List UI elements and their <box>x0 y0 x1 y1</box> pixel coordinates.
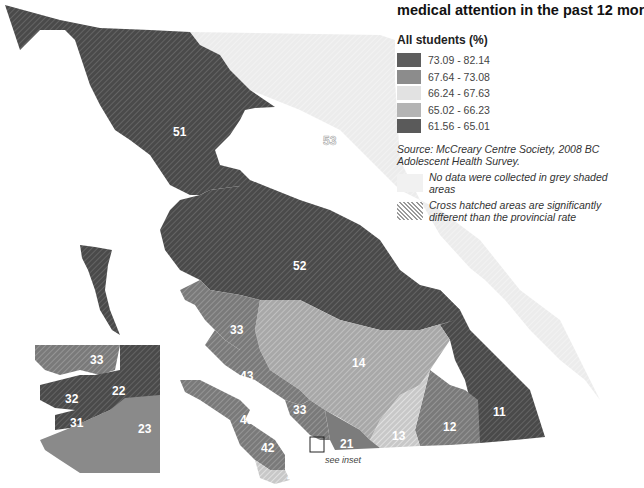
cross-hatch-swatch <box>397 202 423 220</box>
label-41: 41 <box>287 470 301 484</box>
haida-gwaii <box>80 245 120 335</box>
no-data-text: No data were collected in grey shaded ar… <box>429 171 618 195</box>
inset-label-33: 33 <box>90 353 104 367</box>
see-inset-note: see inset <box>325 455 362 465</box>
no-data-swatch <box>397 174 423 192</box>
legend-item: 61.56 - 65.01 <box>397 118 618 135</box>
inset-label-22: 22 <box>112 384 126 398</box>
label-21: 21 <box>340 437 354 451</box>
label-14: 14 <box>352 356 366 370</box>
inset-region-33[interactable] <box>35 345 120 375</box>
legend-swatch <box>397 103 421 117</box>
legend-item: 66.24 - 67.63 <box>397 85 618 102</box>
legend-item: 67.64 - 73.08 <box>397 69 618 86</box>
legend-label: 65.02 - 66.23 <box>428 104 490 116</box>
label-52: 52 <box>293 259 307 273</box>
inset-label-23: 23 <box>138 422 152 436</box>
label-51: 51 <box>173 125 187 139</box>
cross-hatch-text: Cross hatched areas are significantly di… <box>429 199 618 223</box>
legend-label: 67.64 - 73.08 <box>428 71 490 83</box>
label-43: 43 <box>240 369 254 383</box>
inset-label-31: 31 <box>70 416 84 430</box>
legend: All students (%) 73.09 - 82.14 67.64 - 7… <box>397 33 618 223</box>
label-12: 12 <box>443 420 457 434</box>
label-42: 42 <box>261 441 275 455</box>
legend-label: 66.24 - 67.63 <box>428 87 490 99</box>
inset-label-32: 32 <box>65 392 79 406</box>
legend-swatch <box>397 70 421 84</box>
legend-swatch <box>397 119 421 133</box>
legend-swatch <box>397 53 421 67</box>
label-13: 13 <box>392 429 406 443</box>
label-33-south: 33 <box>293 403 307 417</box>
cross-hatch-note: Cross hatched areas are significantly di… <box>397 199 618 223</box>
label-53: 53 <box>323 134 337 148</box>
source-note: Source: McCreary Centre Society, 2008 BC… <box>397 143 618 167</box>
legend-swatch <box>397 86 421 100</box>
legend-item: 65.02 - 66.23 <box>397 102 618 119</box>
label-11: 11 <box>493 405 506 419</box>
no-data-note: No data were collected in grey shaded ar… <box>397 171 618 195</box>
map-title: medical attention in the past 12 mor <box>397 2 644 18</box>
label-43-island: 43 <box>240 413 254 427</box>
legend-label: 61.56 - 65.01 <box>428 120 490 132</box>
legend-label: 73.09 - 82.14 <box>428 54 490 66</box>
legend-item: 73.09 - 82.14 <box>397 52 618 69</box>
legend-heading: All students (%) <box>397 33 618 47</box>
label-33: 33 <box>230 323 244 337</box>
